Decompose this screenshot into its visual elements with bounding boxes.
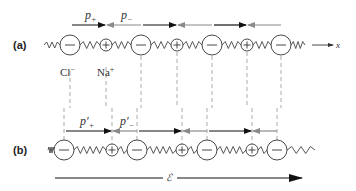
x-axis-label: x bbox=[335, 40, 340, 50]
panel-b-spring bbox=[217, 147, 246, 154]
chloride-ion bbox=[54, 140, 74, 160]
panel-b-spring bbox=[258, 147, 267, 154]
chloride-ion bbox=[127, 140, 147, 160]
ionic-polarization-diagram: (a) (b) Cl− Na+ p+ p− p′+ p′− x ℰ bbox=[0, 0, 356, 191]
chloride-ion bbox=[202, 35, 222, 55]
p-prime-plus-label: p′+ bbox=[79, 114, 94, 130]
panel-b-spring bbox=[188, 147, 197, 154]
sodium-ion bbox=[100, 39, 112, 51]
cl-ion-label: Cl− bbox=[60, 65, 75, 78]
panel-a-spring bbox=[44, 42, 60, 48]
p-prime-minus-label: p′− bbox=[119, 114, 134, 130]
panel-b-spring bbox=[118, 147, 127, 154]
panel-b-chain bbox=[48, 140, 315, 160]
p-minus-label: p− bbox=[120, 8, 132, 24]
panel-a-spring bbox=[151, 42, 171, 49]
field-label: ℰ bbox=[166, 172, 173, 183]
sodium-ion bbox=[176, 144, 188, 156]
sodium-ion bbox=[106, 144, 118, 156]
panel-b-label: (b) bbox=[13, 144, 27, 156]
chloride-ion bbox=[131, 35, 151, 55]
chloride-ion bbox=[197, 140, 217, 160]
panel-a-label: (a) bbox=[13, 39, 27, 51]
panel-a-spring bbox=[222, 42, 241, 49]
chloride-ion bbox=[271, 35, 291, 55]
panel-b-spring bbox=[48, 147, 54, 153]
panel-a-spring bbox=[291, 42, 305, 49]
panel-a-spring bbox=[183, 42, 202, 49]
na-ion-label: Na+ bbox=[97, 65, 115, 78]
p-plus-label: p+ bbox=[84, 8, 96, 24]
diagram-canvas: (a) (b) Cl− Na+ p+ p− p′+ p′− x ℰ bbox=[0, 0, 356, 191]
sodium-ion bbox=[246, 144, 258, 156]
chloride-ion bbox=[60, 35, 80, 55]
panel-a-spring bbox=[80, 42, 100, 49]
sodium-ion bbox=[171, 39, 183, 51]
panel-b-spring bbox=[287, 147, 315, 154]
panel-a-chain bbox=[44, 35, 305, 55]
panel-b-spring bbox=[147, 147, 176, 154]
panel-b-spring bbox=[74, 147, 106, 154]
chloride-ion bbox=[267, 140, 287, 160]
panel-a-spring bbox=[112, 42, 131, 49]
sodium-ion bbox=[241, 39, 253, 51]
panel-a-spring bbox=[253, 42, 271, 49]
